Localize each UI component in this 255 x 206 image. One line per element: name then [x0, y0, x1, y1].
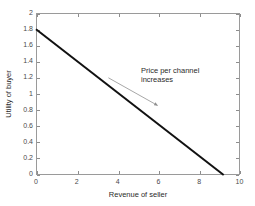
x-tick-top [159, 14, 160, 17]
y-tick [37, 142, 40, 143]
y-tick-label: 1 [29, 90, 33, 98]
y-tick [37, 30, 40, 31]
y-tick [37, 126, 40, 127]
x-tick [119, 171, 120, 174]
y-tick [37, 46, 40, 47]
y-tick-right [236, 14, 239, 15]
y-tick-right [236, 126, 239, 127]
x-tick-label: 2 [75, 178, 79, 186]
y-tick-label: 1.8 [23, 25, 33, 33]
x-tick [78, 171, 79, 174]
x-tick-label: 4 [116, 178, 120, 186]
x-tick-top [119, 14, 120, 17]
y-tick [37, 78, 40, 79]
y-tick-label: 1.4 [23, 57, 33, 65]
x-tick-top [200, 14, 201, 17]
y-tick-label: 0 [29, 170, 33, 178]
y-tick-right [236, 78, 239, 79]
y-tick [37, 158, 40, 159]
y-tick-label: 2 [29, 9, 33, 17]
x-tick [200, 171, 201, 174]
x-tick-label: 10 [236, 178, 244, 186]
figure-canvas: 0 2 4 6 8 10 0 0.2 0.4 0.6 0.8 1 1.2 1.4… [0, 0, 255, 206]
x-tick [159, 171, 160, 174]
x-tick-label: 8 [197, 178, 201, 186]
annotation-label: Price per channel increases [141, 66, 199, 84]
y-tick-right [236, 158, 239, 159]
y-tick [37, 175, 40, 176]
y-tick [37, 62, 40, 63]
y-tick-label: 1.6 [23, 41, 33, 49]
y-tick [37, 110, 40, 111]
y-tick-right [236, 46, 239, 47]
y-tick-label: 0.6 [23, 122, 33, 130]
x-tick-label: 6 [156, 178, 160, 186]
y-tick-right [236, 175, 239, 176]
y-tick-right [236, 94, 239, 95]
y-tick-label: 0.4 [23, 138, 33, 146]
x-tick-top [78, 14, 79, 17]
y-tick-label: 0.8 [23, 106, 33, 114]
y-tick-label: 0.2 [23, 154, 33, 162]
y-tick [37, 14, 40, 15]
x-axis-label: Revenue of seller [109, 190, 167, 199]
y-axis-label: Utility of buyer [4, 70, 13, 118]
x-tick-label: 0 [34, 178, 38, 186]
plot-area [36, 13, 240, 175]
x-tick [240, 171, 241, 174]
y-tick-right [236, 30, 239, 31]
annotation-line-1: Price per channel [141, 66, 199, 75]
y-tick-right [236, 62, 239, 63]
y-tick-right [236, 142, 239, 143]
annotation-line-2: increases [141, 75, 199, 84]
x-tick-top [240, 14, 241, 17]
y-tick-label: 1.2 [23, 73, 33, 81]
y-tick [37, 94, 40, 95]
y-tick-right [236, 110, 239, 111]
